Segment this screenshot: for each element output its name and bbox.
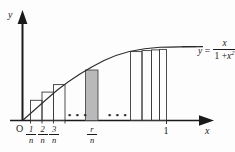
rect-right-1 — [131, 52, 143, 121]
riemann-rectangles — [31, 49, 167, 120]
rect-2-over-n — [42, 92, 54, 120]
y-axis-arrowhead-icon — [18, 10, 28, 24]
figure-riemann-sum: y x O 1 n 2 n 3 n r n 1 • • • • • • y = … — [0, 0, 235, 152]
equation-denominator: 1 +x2 — [213, 50, 235, 62]
denominator-lead: 1 + — [215, 51, 227, 61]
rect-1-over-n — [31, 100, 43, 120]
fraction-numerator: r — [87, 125, 97, 134]
tick-label-3-over-n: 3 n — [49, 125, 59, 144]
rect-right-3 — [152, 50, 160, 121]
rect-3-over-n — [54, 85, 66, 121]
tick-label-r-over-n: r n — [87, 125, 97, 144]
fraction-denominator: n — [87, 136, 97, 145]
fraction-denominator: n — [26, 136, 36, 145]
equation-lhs: y — [198, 46, 202, 56]
rect-right-4 — [160, 49, 167, 120]
ellipsis-left: • • • — [68, 111, 88, 120]
denominator-exponent: 2 — [231, 49, 234, 56]
equation-label: y = x 1 +x2 — [198, 39, 235, 62]
rect-right-2 — [142, 51, 152, 121]
equation-fraction: x 1 +x2 — [213, 39, 235, 62]
ellipsis-right: • • • — [108, 111, 128, 120]
tick-label-1-over-n: 1 n — [26, 125, 36, 144]
equation-numerator: x — [213, 39, 235, 49]
fraction-denominator: n — [38, 136, 48, 145]
equation-equals: = — [205, 46, 210, 56]
y-axis-label: y — [8, 10, 12, 20]
fraction-numerator: 2 — [38, 125, 48, 134]
fraction-denominator: n — [49, 136, 59, 145]
x-axis-label: x — [205, 126, 209, 136]
tick-label-one: 1 — [164, 126, 169, 136]
fraction-numerator: 1 — [26, 125, 36, 134]
tick-label-2-over-n: 2 n — [38, 125, 48, 144]
fraction-numerator: 3 — [49, 125, 59, 134]
origin-label: O — [16, 124, 23, 134]
